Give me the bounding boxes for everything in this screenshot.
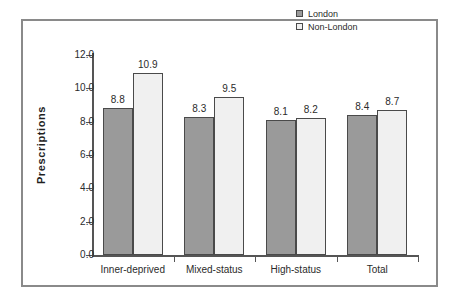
bar-value-label: 10.9 <box>131 59 165 70</box>
chart-figure-frame: Prescriptions 0.02.04.06.08.010.012.0 8.… <box>21 19 438 287</box>
legend-swatch-icon-london <box>296 10 303 17</box>
y-axis-tick-label: 10.0 <box>62 83 94 93</box>
x-axis-tick <box>337 255 338 262</box>
bar-inner-deprived-non-london <box>133 73 163 255</box>
bar-high-status-london <box>266 120 296 255</box>
bar-value-label: 8.2 <box>294 104 328 115</box>
legend-item-london[interactable]: London <box>296 8 396 19</box>
y-axis-tick-label: 6.0 <box>62 150 94 160</box>
y-axis-tick-label: 0.0 <box>62 250 94 260</box>
bar-total-london <box>347 115 377 255</box>
legend-label-london: London <box>308 9 338 19</box>
y-axis-tick-label: 2.0 <box>62 217 94 227</box>
bar-mixed-status-london <box>184 117 214 255</box>
legend-swatch-icon-non-london <box>296 23 303 30</box>
legend-label-non-london: Non-London <box>308 22 358 32</box>
bar-mixed-status-non-london <box>214 97 244 255</box>
bar-value-label: 8.1 <box>264 106 298 117</box>
bar-value-label: 8.3 <box>182 103 216 114</box>
y-axis-tick-label: 8.0 <box>62 117 94 127</box>
bar-high-status-non-london <box>296 118 326 255</box>
y-axis-tick-label: 12.0 <box>62 50 94 60</box>
x-axis-category-label: Total <box>322 264 432 275</box>
bar-inner-deprived-london <box>103 108 133 255</box>
bar-value-label: 8.8 <box>101 94 135 105</box>
bar-value-label: 9.5 <box>212 83 246 94</box>
bar-value-label: 8.4 <box>345 101 379 112</box>
x-axis-tick <box>418 255 419 262</box>
plot-area: Prescriptions 0.02.04.06.08.010.012.0 8.… <box>23 21 436 285</box>
x-axis-tick <box>174 255 175 262</box>
chart-legend: London Non-London <box>296 8 396 34</box>
bar-total-non-london <box>377 110 407 255</box>
y-axis-title: Prescriptions <box>35 80 47 210</box>
y-axis-tick-label: 4.0 <box>62 183 94 193</box>
bar-value-label: 8.7 <box>375 96 409 107</box>
x-axis-tick <box>255 255 256 262</box>
legend-item-non-london[interactable]: Non-London <box>296 21 396 32</box>
